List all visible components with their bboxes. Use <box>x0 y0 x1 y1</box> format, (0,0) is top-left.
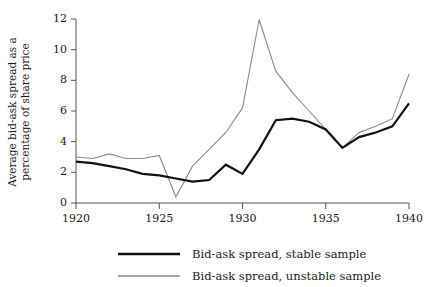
legend-label-stable: Bid-ask spread, stable sample <box>192 247 366 261</box>
y-tick-label: 4 <box>0 135 67 148</box>
y-tick-label: 6 <box>0 104 67 117</box>
x-tick-label: 1925 <box>139 212 179 225</box>
y-tick-label: 0 <box>0 196 67 209</box>
y-tick-label: 2 <box>0 165 67 178</box>
y-tick-label: 12 <box>0 12 67 25</box>
legend-line-unstable <box>118 272 180 280</box>
series-line-stable <box>76 103 409 181</box>
x-tick-label: 1940 <box>389 212 428 225</box>
chart-legend: Bid-ask spread, stable sample Bid-ask sp… <box>0 243 428 287</box>
chart-figure: Average bid-ask spread as a percentage o… <box>0 0 428 287</box>
legend-line-stable <box>118 250 180 258</box>
x-tick-label: 1930 <box>223 212 263 225</box>
legend-item-unstable: Bid-ask spread, unstable sample <box>0 265 428 287</box>
legend-item-stable: Bid-ask spread, stable sample <box>0 243 428 265</box>
x-tick-label: 1935 <box>306 212 346 225</box>
y-tick-label: 10 <box>0 43 67 56</box>
legend-label-unstable: Bid-ask spread, unstable sample <box>192 269 381 283</box>
x-tick-label: 1920 <box>56 212 96 225</box>
y-tick-label: 8 <box>0 73 67 86</box>
